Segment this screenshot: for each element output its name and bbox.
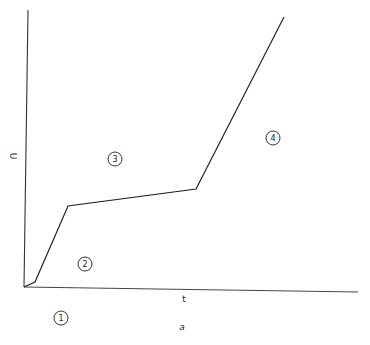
x-axis [24,287,358,292]
svg-text:2: 2 [82,260,87,269]
region-marker-2: 2 [78,257,92,271]
figure-caption: a [179,322,185,332]
diagram-canvas: U t a 1 2 3 4 [0,0,370,345]
svg-text:4: 4 [270,134,275,143]
svg-text:1: 1 [58,314,63,323]
x-axis-label: t [182,294,186,304]
svg-text:3: 3 [112,155,117,164]
y-axis [24,10,28,287]
region-marker-4: 4 [266,131,280,145]
y-axis-label: U [8,153,18,160]
region-marker-3: 3 [108,152,122,166]
curve-line [24,17,284,287]
region-marker-1: 1 [54,311,68,325]
